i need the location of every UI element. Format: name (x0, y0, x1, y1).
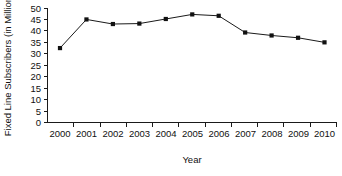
data-point-2003 (137, 21, 141, 25)
y-tick-label-10: 10 (30, 94, 41, 105)
x-tick-label-2008: 2008 (261, 128, 282, 139)
x-tick-label-2010: 2010 (314, 128, 335, 139)
y-tick-label-20: 20 (30, 71, 41, 82)
x-tick-label-2000: 2000 (49, 128, 70, 139)
y-axis-tick-labels: 0 5 10 15 20 25 30 35 40 45 50 (30, 3, 41, 129)
x-tick-label-2005: 2005 (182, 128, 203, 139)
data-point-2007 (243, 30, 247, 34)
data-point-2004 (164, 17, 168, 21)
data-point-2000 (58, 46, 62, 50)
line-chart: 0 5 10 15 20 25 30 35 40 45 50 (0, 0, 342, 176)
y-tick-label-30: 30 (30, 48, 41, 59)
y-axis-title: Fixed Line Subscribers (in Million) (2, 0, 13, 136)
y-tick-label-45: 45 (30, 14, 41, 25)
x-tick-label-2002: 2002 (102, 128, 123, 139)
y-tick-label-35: 35 (30, 37, 41, 48)
y-tick-label-25: 25 (30, 60, 41, 71)
x-tick-label-2009: 2009 (288, 128, 309, 139)
y-tick-label-5: 5 (36, 106, 41, 117)
x-axis-tick-labels: 2000 2001 2002 2003 2004 2005 2006 2007 … (49, 128, 335, 139)
x-axis-title: Year (182, 154, 201, 165)
data-point-2006 (217, 14, 221, 18)
series-line (60, 14, 325, 48)
x-tick-label-2003: 2003 (129, 128, 150, 139)
x-tick-label-2004: 2004 (155, 128, 176, 139)
x-axis-ticks (74, 123, 337, 127)
data-series (58, 12, 327, 50)
data-point-2001 (84, 17, 88, 21)
data-point-2009 (296, 36, 300, 40)
y-tick-label-50: 50 (30, 3, 41, 14)
y-axis-ticks (44, 8, 48, 123)
data-point-2005 (190, 12, 194, 16)
x-tick-label-2007: 2007 (235, 128, 256, 139)
x-tick-label-2001: 2001 (76, 128, 97, 139)
y-tick-label-40: 40 (30, 25, 41, 36)
x-tick-label-2006: 2006 (208, 128, 229, 139)
data-point-2002 (111, 22, 115, 26)
y-tick-label-15: 15 (30, 83, 41, 94)
data-point-2008 (270, 33, 274, 37)
y-tick-label-0: 0 (36, 117, 41, 128)
chart-canvas: 0 5 10 15 20 25 30 35 40 45 50 (0, 0, 342, 176)
data-point-2010 (322, 40, 326, 44)
